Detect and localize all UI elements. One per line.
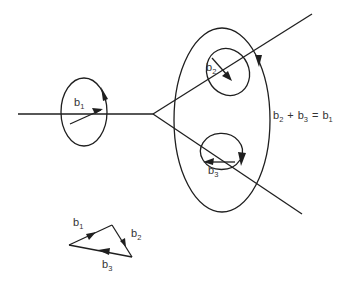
triangle-label-b2: b2 <box>131 227 141 242</box>
equation-label: b2+b3=b1 <box>273 109 333 124</box>
burgers-circuit-b1: b1 <box>61 78 108 146</box>
vector-triangle: b1 b2 b3 <box>69 216 141 273</box>
dislocation-node-diagram: b1 b2 b3 b2+b3=b1 b1 b2 b3 <box>0 0 352 284</box>
dislocation-line-b3 <box>153 114 302 214</box>
burgers-circuit-total <box>174 28 270 212</box>
dislocation-line-b2 <box>153 14 312 114</box>
label-b2: b2 <box>206 61 216 76</box>
circuit-arrow-icon <box>101 87 108 101</box>
burgers-circuit-b2: b2 <box>199 41 257 102</box>
vector-arrow-icon <box>86 232 96 240</box>
circuit-arrow-icon <box>238 152 246 166</box>
label-b3: b3 <box>208 164 218 179</box>
label-b1: b1 <box>74 96 84 111</box>
triangle-label-b1: b1 <box>73 216 83 231</box>
triangle-label-b3: b3 <box>102 258 112 273</box>
vector-arrow-icon <box>222 71 232 81</box>
